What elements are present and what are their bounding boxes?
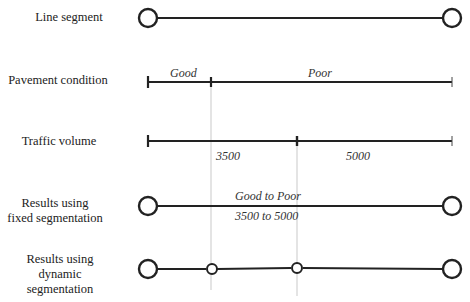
start-node-icon <box>139 197 157 215</box>
fixed-segmentation-row: Good to Poor 3500 to 5000 <box>139 189 461 223</box>
break-node-icon <box>292 263 302 273</box>
traffic-row: 3500 5000 <box>148 135 452 163</box>
break-node-icon <box>207 264 217 274</box>
fixed-label-volume: 3500 to 5000 <box>234 209 298 223</box>
pavement-label-poor: Poor <box>307 66 332 80</box>
pavement-label-good: Good <box>170 66 198 80</box>
line-segment-row <box>139 9 461 27</box>
pavement-row: Good Poor <box>148 66 452 88</box>
end-node-icon <box>443 260 461 278</box>
start-node-icon <box>139 9 157 27</box>
traffic-label-5000: 5000 <box>346 149 370 163</box>
start-node-icon <box>139 260 157 278</box>
fixed-label-condition: Good to Poor <box>235 189 301 203</box>
segmentation-diagram: Good Poor 3500 5000 Good to Poor 3500 to… <box>0 0 470 302</box>
end-node-icon <box>443 9 461 27</box>
end-node-icon <box>443 197 461 215</box>
traffic-label-3500: 3500 <box>215 149 240 163</box>
dynamic-segmentation-row <box>139 260 461 278</box>
